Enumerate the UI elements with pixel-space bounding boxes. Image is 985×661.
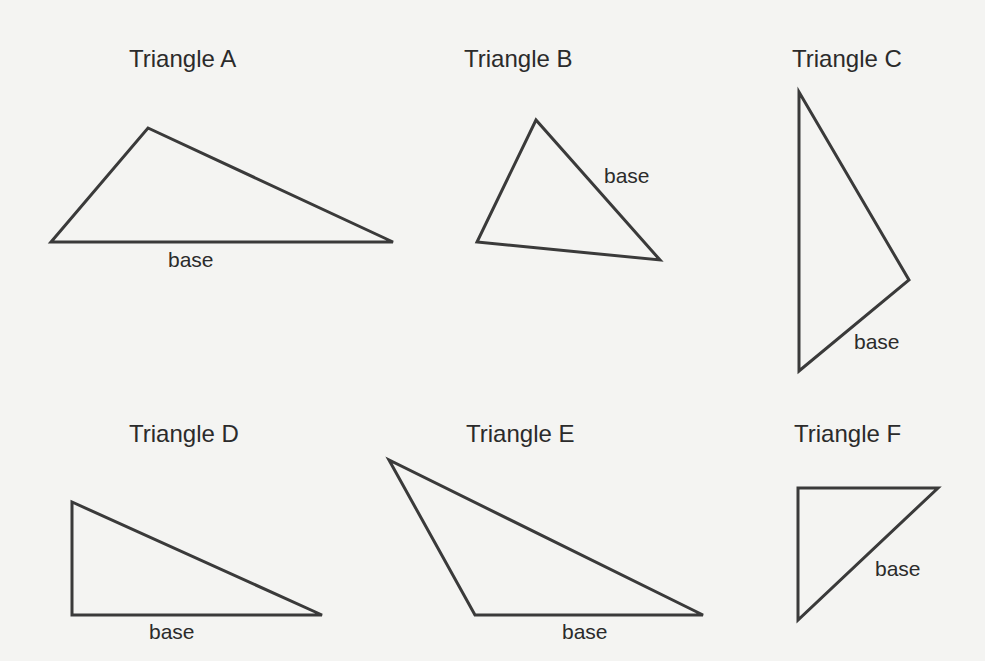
triangle-b-base-label: base <box>604 164 650 188</box>
triangles-canvas <box>0 0 985 661</box>
triangle-d-title: Triangle D <box>129 420 239 448</box>
triangle-c-base-label: base <box>854 330 900 354</box>
triangle-a-base-label: base <box>168 248 214 272</box>
triangle-b-shape <box>477 120 660 260</box>
triangle-a-shape <box>51 128 393 242</box>
triangle-d-base-label: base <box>149 620 195 644</box>
triangle-e-title: Triangle E <box>466 420 575 448</box>
triangle-e-shape <box>389 460 703 615</box>
triangle-e-base-label: base <box>562 620 608 644</box>
triangle-f-base-label: base <box>875 557 921 581</box>
triangle-b-title: Triangle B <box>464 45 573 73</box>
triangle-f-title: Triangle F <box>794 420 901 448</box>
triangle-c-title: Triangle C <box>792 45 902 73</box>
triangle-d-shape <box>72 502 322 615</box>
triangle-a-title: Triangle A <box>129 45 236 73</box>
triangle-f-shape <box>798 488 938 620</box>
